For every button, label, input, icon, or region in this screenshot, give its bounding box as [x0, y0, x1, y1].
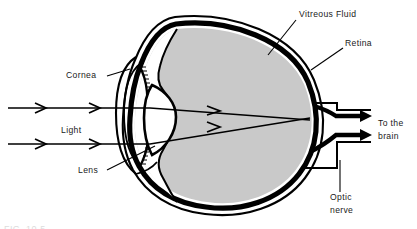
- label-to-the-brain-line2: brain: [378, 131, 399, 141]
- label-vitreous-fluid: Vitreous Fluid: [299, 9, 356, 19]
- nerve-arrowhead-upper: [360, 110, 372, 122]
- nerve-arrowhead-lower: [360, 129, 372, 141]
- label-lens: Lens: [78, 165, 98, 175]
- label-optic-nerve-line1: Optic: [330, 192, 352, 202]
- leader-retina: [311, 48, 343, 70]
- figure-caption-text: FIG. 10-5: [4, 224, 124, 229]
- label-retina: Retina: [345, 38, 372, 48]
- label-optic-nerve: Optic nerve: [330, 192, 353, 215]
- eye-diagram-figure: Vitreous Fluid Retina Cornea Light Lens …: [0, 0, 417, 229]
- figure-caption-partial: FIG. 10-5: [4, 224, 124, 229]
- eye-diagram-svg: Vitreous Fluid Retina Cornea Light Lens …: [0, 0, 417, 229]
- leader-cornea: [107, 69, 130, 76]
- label-optic-nerve-line2: nerve: [330, 205, 353, 215]
- label-cornea: Cornea: [66, 70, 96, 80]
- label-light: Light: [61, 125, 82, 135]
- label-to-the-brain-line1: To the: [378, 118, 404, 128]
- label-to-the-brain: To the brain: [378, 118, 404, 141]
